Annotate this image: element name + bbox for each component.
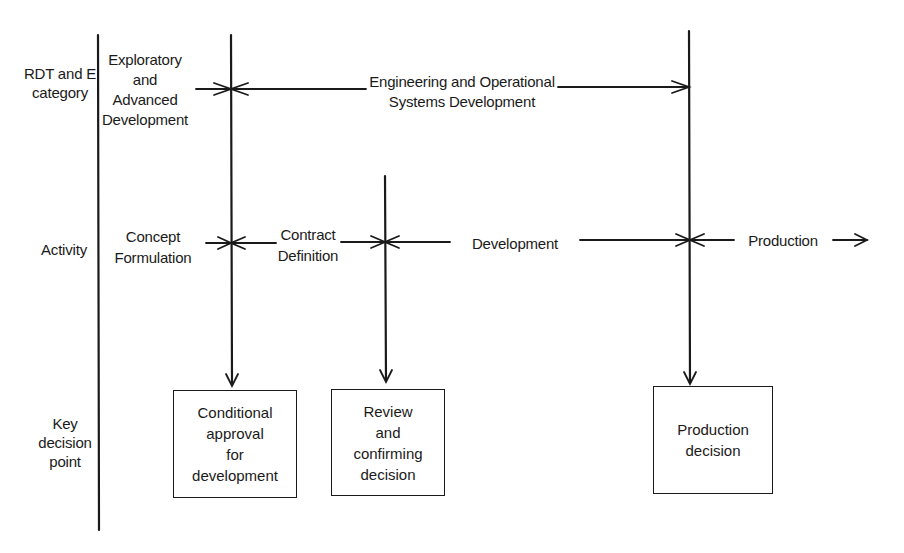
milestone-line-1 bbox=[231, 35, 232, 385]
row-label-activity: Activity bbox=[41, 240, 87, 259]
milestone-line-3 bbox=[689, 31, 690, 383]
row-axis-line bbox=[98, 35, 99, 530]
milestone-line-2 bbox=[385, 176, 386, 380]
decision-box-production: Production decision bbox=[653, 386, 773, 494]
decision-label: Conditional approval for development bbox=[192, 402, 278, 486]
category-engineering: Engineering and Operational Systems Deve… bbox=[369, 72, 555, 112]
decision-box-review: Review and confirming decision bbox=[331, 389, 445, 496]
decision-box-conditional-approval: Conditional approval for development bbox=[173, 390, 297, 498]
activity-concept: Concept Formulation bbox=[115, 226, 192, 268]
activity-production: Production bbox=[748, 231, 818, 250]
decision-label: Review and confirming decision bbox=[353, 401, 422, 485]
decision-label: Production decision bbox=[677, 419, 749, 461]
row-label-decision: Key decision point bbox=[38, 414, 91, 471]
activity-development: Development bbox=[472, 234, 558, 253]
row-label-category: RDT and E category bbox=[24, 64, 96, 102]
activity-contract: Contract Definition bbox=[278, 224, 339, 266]
category-exploratory: Exploratory and Advanced Development bbox=[102, 50, 188, 130]
